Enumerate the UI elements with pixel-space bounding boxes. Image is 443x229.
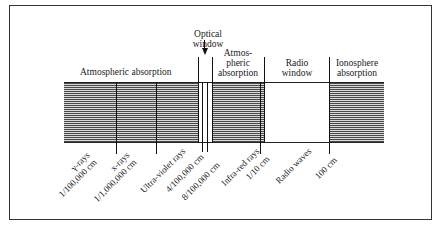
atmos-line3: absorption: [212, 68, 264, 78]
optical-left-separator: [198, 57, 199, 143]
optical-inner-line-2: [207, 82, 208, 152]
atmos-line1: Atmos-: [212, 48, 264, 58]
ionosphere-absorption-band: [329, 82, 384, 143]
atmospheric-absorption-label: Atmospheric absorption: [80, 67, 172, 77]
gamma-divider: [116, 82, 117, 154]
optical-inner-line-1: [202, 82, 203, 152]
xray-divider: [156, 82, 157, 154]
atmos-line2: pheric: [212, 58, 264, 68]
optical-window-line1: Optical: [188, 29, 228, 39]
infrared-divider: [260, 82, 261, 154]
iono-line2: absorption: [329, 68, 385, 78]
iono-line1: Ionosphere: [329, 58, 385, 68]
atmospheric-absorption-band-2: [212, 82, 265, 143]
radio-window-band: [264, 82, 330, 143]
ionosphere-absorption-label: Ionosphere absorption: [329, 58, 385, 78]
radio-line2: window: [264, 68, 330, 78]
radio-window-label: Radio window: [264, 58, 330, 78]
down-arrow-icon: [202, 48, 208, 55]
radio-line1: Radio: [264, 58, 330, 68]
atmospheric-absorption-band: [64, 82, 199, 143]
optical-window-label: Optical window: [188, 29, 228, 49]
optical-window-band: [198, 82, 213, 143]
atmospheric-absorption-2-label: Atmos- pheric absorption: [212, 48, 264, 78]
